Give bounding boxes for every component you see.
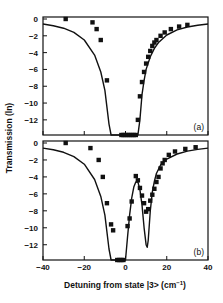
data-point xyxy=(127,216,131,220)
data-point xyxy=(148,49,152,53)
panel-label: (a) xyxy=(194,122,205,132)
y-tick-label: 0 xyxy=(34,139,39,148)
data-point xyxy=(173,149,177,153)
data-point xyxy=(140,80,144,84)
data-point xyxy=(63,141,67,145)
figure: 0−2−4−6−8−10−12(a) 0−2−4−6−8−10−12−40−20… xyxy=(0,0,223,303)
x-tick-label: −40 xyxy=(36,263,50,272)
data-point xyxy=(150,193,154,197)
plot-frame xyxy=(43,17,208,135)
data-point xyxy=(158,166,162,170)
data-point xyxy=(183,147,187,151)
data-point xyxy=(162,158,166,162)
data-point xyxy=(96,158,100,162)
theory-curve xyxy=(43,148,208,260)
y-axis-title: Transmission (ln) xyxy=(4,103,14,174)
x-tick-label: 40 xyxy=(204,263,213,272)
data-point xyxy=(136,118,140,122)
data-point xyxy=(101,175,105,179)
data-point xyxy=(99,38,103,42)
data-point xyxy=(88,146,92,150)
data-point xyxy=(158,34,162,38)
x-axis-title-end: ) xyxy=(183,280,186,290)
data-point xyxy=(121,258,125,262)
data-point xyxy=(144,61,148,65)
x-axis-title-main: Detuning from state |3> (cm xyxy=(64,280,177,290)
data-point xyxy=(162,30,166,34)
data-point xyxy=(146,55,150,59)
y-tick-label: 0 xyxy=(34,15,39,24)
y-tick-label: −2 xyxy=(29,156,39,165)
data-point xyxy=(154,180,158,184)
data-point xyxy=(105,201,109,205)
y-tick-label: −8 xyxy=(29,82,39,91)
y-tick-label: −10 xyxy=(24,99,38,108)
panel-a: 0−2−4−6−8−10−12(a) xyxy=(24,15,208,137)
data-point xyxy=(146,207,150,211)
data-point xyxy=(136,178,140,182)
data-point xyxy=(156,175,160,179)
data-point xyxy=(125,224,129,228)
data-point xyxy=(109,222,113,226)
x-axis-title: Detuning from state |3> (cm−1) xyxy=(64,280,186,290)
data-point xyxy=(105,78,109,82)
data-point xyxy=(138,94,142,98)
data-point xyxy=(167,153,171,157)
y-tick-label: −4 xyxy=(29,49,39,58)
data-point xyxy=(177,24,181,28)
data-point xyxy=(142,201,146,205)
theory-curve xyxy=(43,24,208,135)
y-tick-label: −8 xyxy=(29,207,39,216)
data-point xyxy=(94,27,98,31)
y-tick-label: −6 xyxy=(29,190,39,199)
data-point xyxy=(148,198,152,202)
x-tick-label: −20 xyxy=(77,263,91,272)
data-point xyxy=(140,193,144,197)
data-point xyxy=(138,186,142,190)
data-point xyxy=(169,27,173,31)
y-tick-label: −12 xyxy=(24,116,38,125)
data-point xyxy=(129,199,133,203)
data-point xyxy=(154,38,158,42)
x-tick-label: 20 xyxy=(162,263,171,272)
data-point xyxy=(193,145,197,149)
data-point xyxy=(185,23,189,27)
data-point xyxy=(152,187,156,191)
data-point xyxy=(90,20,94,24)
panel-label: (b) xyxy=(194,247,205,257)
x-tick-label: 0 xyxy=(123,263,128,272)
plot-frame xyxy=(43,141,208,260)
y-tick-label: −6 xyxy=(29,65,39,74)
data-point xyxy=(63,17,67,21)
data-point xyxy=(134,133,138,137)
y-tick-label: −4 xyxy=(29,173,39,182)
panel-b: 0−2−4−6−8−10−12−40−2002040(b) xyxy=(24,139,213,272)
data-point xyxy=(134,174,138,178)
y-tick-label: −2 xyxy=(29,32,39,41)
y-tick-label: −12 xyxy=(24,241,38,250)
data-point xyxy=(111,228,115,232)
data-point xyxy=(142,70,146,74)
y-tick-label: −10 xyxy=(24,224,38,233)
